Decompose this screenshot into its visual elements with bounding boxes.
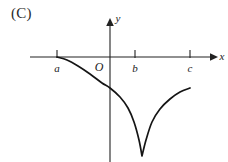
figure-container: (C) a b c O x y (0, 0, 228, 162)
y-axis-arrow-icon (106, 18, 114, 26)
x-tick-label-b: b (132, 62, 138, 74)
x-tick-label-a: a (54, 62, 60, 74)
origin-label: O (95, 60, 104, 74)
x-axis-label: x (219, 50, 225, 62)
x-tick-label-c: c (188, 62, 193, 74)
x-axis-arrow-icon (210, 53, 218, 61)
curve-path (57, 57, 190, 156)
graph-plot: a b c O x y (0, 0, 228, 162)
y-axis-label: y (115, 12, 121, 24)
